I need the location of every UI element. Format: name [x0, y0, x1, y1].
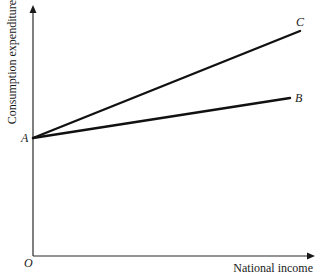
consumption-diagram: A C B O National income Consumption expe…	[0, 0, 321, 279]
line-ab	[33, 98, 290, 138]
label-a: A	[20, 131, 29, 145]
label-b: B	[295, 91, 303, 105]
y-axis-title: Consumption expenditure	[5, 0, 19, 124]
line-ac	[33, 31, 300, 138]
y-axis-arrow-icon	[30, 5, 37, 13]
label-c: C	[296, 15, 305, 29]
label-origin: O	[24, 256, 33, 270]
x-axis-title: National income	[233, 261, 313, 275]
x-axis-arrow-icon	[307, 253, 315, 260]
